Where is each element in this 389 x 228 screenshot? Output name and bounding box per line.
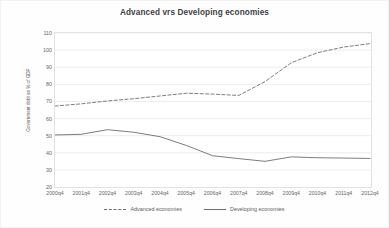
legend-swatch-icon (104, 209, 126, 210)
y-axis-tick: 100 (12, 47, 52, 53)
x-axis-tick: 2001q4 (73, 190, 90, 196)
chart-container: Advanced vrs Developing economies Govern… (0, 0, 389, 228)
legend-item-1[interactable]: Advanced economies (104, 206, 182, 212)
y-axis-tick: 80 (12, 81, 52, 87)
plot-svg (55, 33, 371, 187)
x-axis-tick: 2008q4 (256, 190, 273, 196)
y-axis-tick-labels: 2030405060708090100110 (8, 32, 52, 188)
x-axis-tick-labels: 2000q42001q42002q42003q42004q42005q42006… (54, 190, 372, 202)
x-axis-tick: 2012q4 (361, 190, 378, 196)
y-axis-tick: 60 (12, 116, 52, 122)
y-axis-tick: 30 (12, 167, 52, 173)
x-axis-tick: 2011q4 (335, 190, 352, 196)
y-axis-tick: 90 (12, 64, 52, 70)
legend-label: Advanced economies (130, 206, 182, 212)
y-axis-tick: 70 (12, 98, 52, 104)
x-axis-tick: 2005q4 (178, 190, 195, 196)
series-lines (55, 44, 370, 162)
x-axis-tick: 2004q4 (151, 190, 168, 196)
legend-swatch-icon (204, 209, 226, 210)
x-axis-tick: 2007q4 (230, 190, 247, 196)
x-axis-tick: 2002q4 (99, 190, 116, 196)
y-axis-tick: 110 (12, 30, 52, 36)
chart-title: Advanced vrs Developing economies (0, 8, 389, 17)
legend-item-2[interactable]: Developing economies (204, 206, 285, 212)
y-axis-tick: 40 (12, 150, 52, 156)
plot-area (54, 32, 372, 188)
x-axis-tick: 2010q4 (309, 190, 326, 196)
x-axis-tick: 2006q4 (204, 190, 221, 196)
gridlines (55, 33, 371, 170)
series-line-1 (55, 44, 370, 106)
y-axis-tick: 50 (12, 133, 52, 139)
x-axis-tick: 2003q4 (125, 190, 142, 196)
chart-legend: Advanced economiesDeveloping economies (0, 206, 389, 212)
series-line-2 (55, 130, 370, 162)
legend-label: Developing economies (230, 206, 285, 212)
x-axis-tick: 2000q4 (46, 190, 63, 196)
x-axis-tick: 2009q4 (283, 190, 300, 196)
